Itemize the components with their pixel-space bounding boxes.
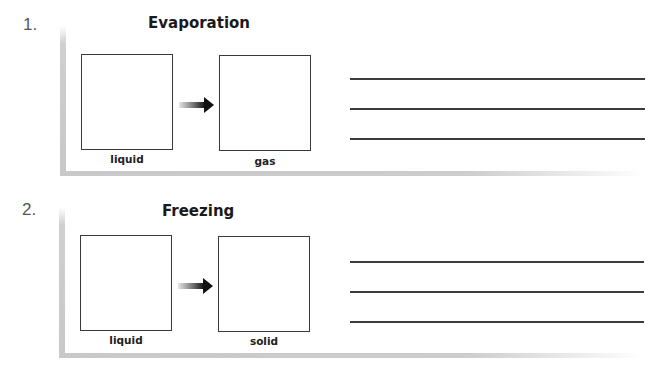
frame-bottom-border	[59, 353, 644, 358]
answer-line[interactable]	[350, 108, 645, 110]
answer-line[interactable]	[350, 78, 645, 80]
item-number: 1.	[23, 15, 37, 35]
item-number: 2.	[22, 200, 36, 220]
worksheet-item-freezing: 2. Freezing liquid solid	[0, 183, 665, 366]
right-arrow-icon	[178, 278, 214, 294]
drawing-box-to[interactable]	[218, 236, 310, 332]
right-arrow-icon	[179, 97, 215, 113]
answer-line[interactable]	[350, 261, 644, 263]
drawing-box-from[interactable]	[81, 54, 173, 150]
box-label-to: solid	[218, 335, 310, 347]
frame-left-border	[59, 207, 65, 357]
item-title: Evaporation	[148, 14, 250, 32]
drawing-box-from[interactable]	[80, 235, 172, 331]
drawing-box-to[interactable]	[219, 55, 311, 151]
box-label-to: gas	[219, 155, 311, 167]
box-label-from: liquid	[81, 153, 173, 165]
answer-line[interactable]	[350, 138, 645, 140]
box-label-from: liquid	[80, 334, 172, 346]
frame-left-border	[60, 26, 66, 176]
worksheet-item-evaporation: 1. Evaporation liquid gas	[0, 0, 665, 183]
frame-bottom-border	[60, 171, 645, 176]
item-title: Freezing	[162, 202, 234, 220]
answer-line[interactable]	[350, 321, 644, 323]
answer-line[interactable]	[350, 291, 644, 293]
